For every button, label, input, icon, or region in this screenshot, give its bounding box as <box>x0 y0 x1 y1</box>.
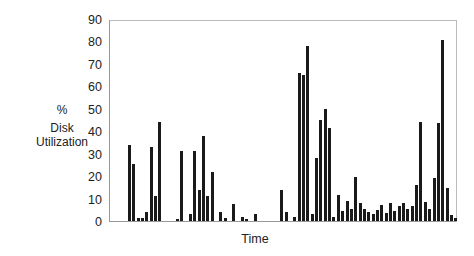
bar <box>428 209 431 221</box>
bar <box>398 206 401 221</box>
bar <box>206 196 209 221</box>
y-tick-label: 90 <box>72 13 102 27</box>
y-tick-label: 50 <box>72 103 102 117</box>
bar <box>359 203 362 221</box>
bar <box>280 190 283 221</box>
bar <box>298 73 301 221</box>
bar <box>454 218 457 221</box>
y-tick-label: 60 <box>72 80 102 94</box>
bar <box>293 217 296 221</box>
bar <box>154 196 157 221</box>
bar <box>437 123 440 221</box>
bar <box>141 218 144 221</box>
y-tick-label: 70 <box>72 58 102 72</box>
bar <box>315 158 318 221</box>
bar <box>346 201 349 221</box>
plot-area <box>109 20 457 222</box>
bar <box>393 211 396 221</box>
bar <box>150 147 153 221</box>
bar <box>219 212 222 221</box>
y-tick-label: 10 <box>72 193 102 207</box>
bar <box>380 205 383 221</box>
bar <box>433 178 436 221</box>
bar <box>389 203 392 221</box>
bar <box>232 204 235 221</box>
bar <box>137 218 140 221</box>
y-tick-label: 80 <box>72 35 102 49</box>
bar <box>311 214 314 221</box>
y-tick-label: 30 <box>72 148 102 162</box>
x-axis-label: Time <box>225 232 285 246</box>
bar <box>285 212 288 221</box>
bar <box>224 218 227 221</box>
bar <box>354 177 357 221</box>
bar <box>241 217 244 221</box>
bar <box>254 214 257 221</box>
bar <box>402 203 405 221</box>
bar <box>337 195 340 221</box>
bar <box>319 120 322 221</box>
bar <box>341 211 344 221</box>
bar <box>419 122 422 221</box>
bar <box>411 206 414 221</box>
bar <box>324 109 327 221</box>
bar <box>245 219 248 221</box>
bar <box>189 214 192 221</box>
bar <box>211 172 214 221</box>
bar <box>328 128 331 221</box>
y-tick-label: 40 <box>72 125 102 139</box>
y-tick-label: 20 <box>72 170 102 184</box>
bar <box>198 190 201 221</box>
bar <box>363 209 366 221</box>
bar <box>415 185 418 221</box>
y-tick-label: 0 <box>72 215 102 229</box>
bar <box>350 209 353 221</box>
bar <box>180 151 183 221</box>
bar <box>406 209 409 221</box>
bar <box>372 214 375 221</box>
bar <box>424 202 427 221</box>
bar <box>306 46 309 221</box>
bar <box>158 122 161 221</box>
bar <box>385 213 388 221</box>
bar <box>446 188 449 221</box>
bar <box>302 75 305 221</box>
bar <box>128 145 131 221</box>
bar <box>367 212 370 221</box>
bar <box>450 215 453 221</box>
bar <box>332 217 335 221</box>
bar <box>145 212 148 221</box>
bar <box>132 164 135 221</box>
bar <box>193 151 196 221</box>
bar <box>441 40 444 221</box>
bar <box>376 210 379 221</box>
bar <box>202 136 205 221</box>
bar <box>176 219 179 221</box>
